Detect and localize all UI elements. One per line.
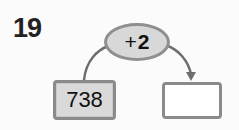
- input-value: 738: [66, 87, 103, 113]
- left-connector-line: [84, 46, 108, 80]
- operand: 2: [138, 30, 150, 54]
- arrowhead-icon: [186, 72, 196, 81]
- operation-oval: + 2: [104, 23, 170, 61]
- answer-box[interactable]: [162, 82, 222, 119]
- right-arrow-line: [168, 46, 191, 74]
- operator: +: [125, 30, 137, 54]
- input-box: 738: [53, 80, 116, 120]
